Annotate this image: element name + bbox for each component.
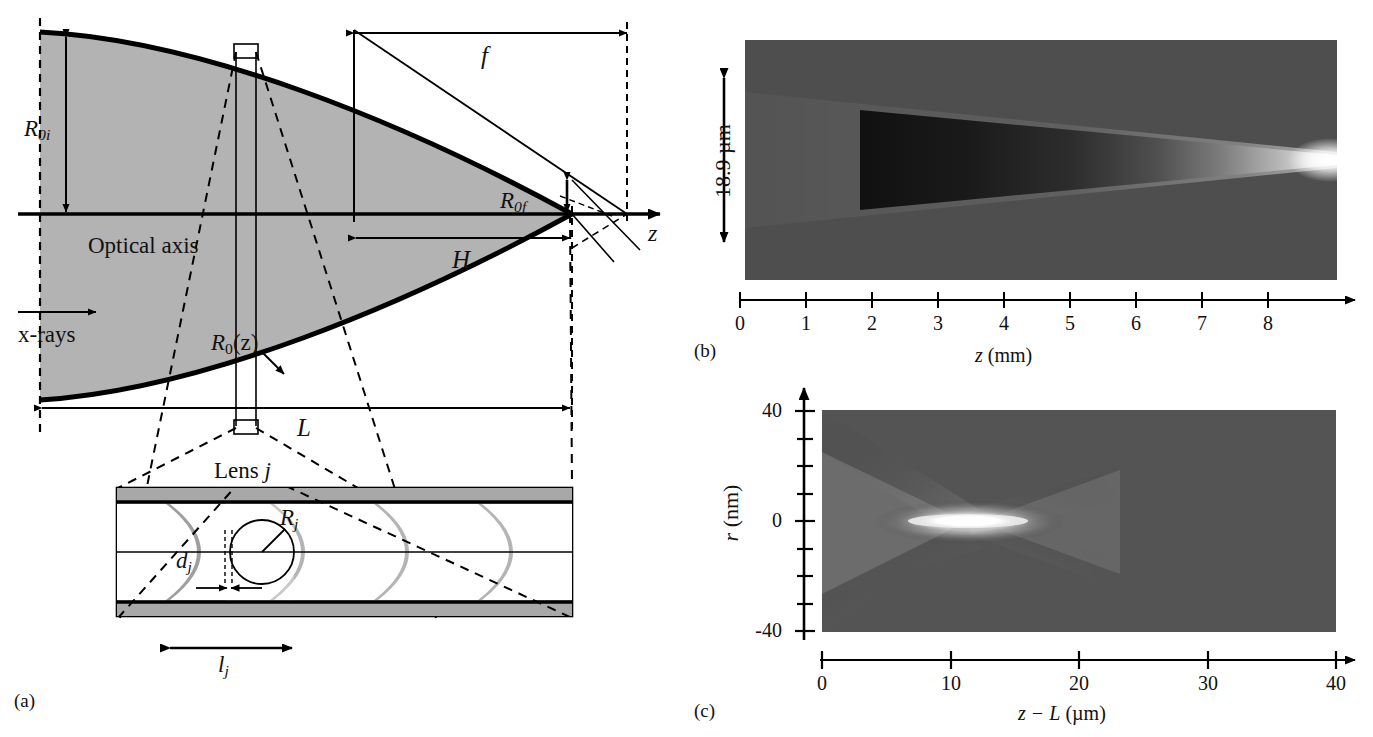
label-R0f: R0f bbox=[500, 188, 526, 216]
panel-tag-a: (a) bbox=[14, 690, 35, 712]
lens-body-fill bbox=[40, 32, 572, 400]
label-H: H bbox=[452, 246, 470, 274]
callout-box-bottom bbox=[234, 420, 258, 434]
xtick-b-3: 3 bbox=[924, 312, 952, 335]
label-lens-j: Lens j bbox=[214, 458, 271, 484]
xtick-b-6: 6 bbox=[1122, 312, 1150, 335]
xtick-c-40: 40 bbox=[1315, 672, 1357, 695]
ytick-c-40: 40 bbox=[740, 399, 782, 422]
xtick-c-0: 0 bbox=[808, 672, 836, 695]
figure-root: R0i R0f f H L z Optical axis x-rays R0(z… bbox=[0, 0, 1373, 737]
panel-tag-b: (b) bbox=[694, 340, 716, 362]
label-z-axis: z bbox=[648, 220, 657, 247]
callout-box-top bbox=[234, 44, 258, 58]
label-R0z: R0(z) bbox=[211, 330, 258, 358]
r0z-leader-arrow bbox=[262, 352, 284, 374]
label-R0i: R0i bbox=[24, 116, 50, 144]
label-Rj: Rj bbox=[280, 505, 298, 533]
ytick-c-0: 0 bbox=[740, 509, 782, 532]
ray-dashed-lower bbox=[572, 214, 627, 248]
xtick-c-30: 30 bbox=[1187, 672, 1229, 695]
xlabel-b: z (mm) bbox=[975, 344, 1032, 367]
panel-c-waist-inner-glow bbox=[890, 509, 1046, 533]
figure-canvas bbox=[0, 0, 1373, 737]
xtick-b-0: 0 bbox=[726, 312, 754, 335]
label-dj: dj bbox=[176, 548, 192, 576]
xtick-b-1: 1 bbox=[792, 312, 820, 335]
xlabel-c: z − L (µm) bbox=[1018, 702, 1106, 725]
label-lj: lj bbox=[218, 652, 229, 680]
xtick-b-7: 7 bbox=[1188, 312, 1216, 335]
panel-c-plot bbox=[795, 388, 1355, 669]
xtick-b-5: 5 bbox=[1056, 312, 1084, 335]
label-xrays: x-rays bbox=[18, 322, 75, 348]
ytick-c-minus40: -40 bbox=[731, 619, 782, 642]
xtick-b-4: 4 bbox=[990, 312, 1018, 335]
xtick-c-10: 10 bbox=[930, 672, 972, 695]
panel-b-focus-spot bbox=[1288, 138, 1372, 182]
xtick-b-8: 8 bbox=[1254, 312, 1282, 335]
panel-b-plot bbox=[724, 40, 1372, 308]
label-f: f bbox=[481, 42, 488, 70]
inset-rail-bottom bbox=[117, 603, 572, 616]
label-vertical-scale-b: 18.9 µm bbox=[710, 81, 736, 241]
label-L: L bbox=[297, 414, 311, 442]
inset-rail-top bbox=[117, 488, 572, 501]
label-optical-axis: Optical axis bbox=[88, 233, 199, 259]
panel-a-schematic bbox=[0, 18, 660, 648]
xtick-c-20: 20 bbox=[1058, 672, 1100, 695]
xtick-b-2: 2 bbox=[858, 312, 886, 335]
ray-lower-divergent bbox=[572, 214, 614, 262]
panel-tag-c: (c) bbox=[694, 700, 715, 722]
lens-inset bbox=[0, 486, 613, 648]
